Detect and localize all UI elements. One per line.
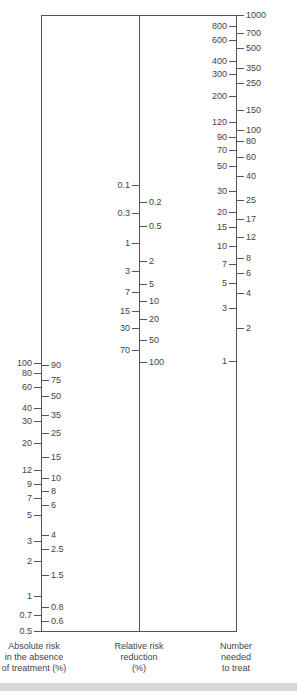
tick-mark: [237, 141, 244, 142]
tick-mark: [34, 541, 41, 542]
tick-label: 0.5: [19, 627, 32, 636]
tick-label: 3: [222, 304, 227, 313]
tick-mark: [34, 443, 41, 444]
tick-label: 15: [217, 223, 227, 232]
caption-line: to treat: [191, 663, 281, 674]
tick-label: 90: [51, 361, 61, 370]
tick-mark: [229, 283, 236, 284]
tick-label: 4: [51, 531, 56, 540]
tick-label: 1: [222, 357, 227, 366]
tick-mark: [42, 491, 49, 492]
tick-label: 70: [217, 146, 227, 155]
tick-mark: [42, 396, 49, 397]
tick-mark: [42, 621, 49, 622]
tick-label: 0.1: [117, 181, 130, 190]
tick-label: 6: [246, 269, 251, 278]
tick-mark: [229, 264, 236, 265]
tick-label: 25: [51, 429, 61, 438]
tick-label: 8: [51, 487, 56, 496]
tick-label: 50: [51, 392, 61, 401]
tick-mark: [140, 362, 147, 363]
tick-mark: [229, 246, 236, 247]
tick-mark: [42, 433, 49, 434]
tick-label: 12: [246, 233, 256, 242]
tick-mark: [237, 33, 244, 34]
tick-label: 10: [149, 297, 159, 306]
tick-mark: [34, 470, 41, 471]
tick-mark: [132, 292, 139, 293]
tick-mark: [229, 96, 236, 97]
tick-mark: [42, 380, 49, 381]
tick-label: 0.7: [19, 611, 32, 620]
tick-label: 1: [27, 592, 32, 601]
tick-mark: [42, 478, 49, 479]
caption-line: needed: [191, 652, 281, 663]
tick-mark: [237, 219, 244, 220]
tick-label: 15: [120, 307, 130, 316]
tick-label: 6: [51, 501, 56, 510]
tick-label: 30: [120, 324, 130, 333]
tick-mark: [140, 202, 147, 203]
tick-mark: [34, 561, 41, 562]
tick-mark: [237, 293, 244, 294]
tick-label: 20: [22, 439, 32, 448]
tick-label: 50: [217, 162, 227, 171]
tick-label: 3: [125, 267, 130, 276]
tick-mark: [34, 408, 41, 409]
tick-mark: [42, 549, 49, 550]
tick-label: 150: [246, 106, 261, 115]
axis-caption: Numberneededto treat: [191, 641, 281, 674]
tick-mark: [42, 575, 49, 576]
tick-label: 0.6: [51, 617, 64, 626]
tick-label: 1: [125, 239, 130, 248]
tick-mark: [237, 15, 244, 16]
tick-mark: [132, 271, 139, 272]
tick-label: 7: [27, 494, 32, 503]
tick-label: 0.2: [149, 198, 162, 207]
tick-label: 0.8: [51, 603, 64, 612]
tick-mark: [229, 212, 236, 213]
caption-line: Relative risk: [94, 641, 184, 652]
tick-mark: [229, 166, 236, 167]
tick-mark: [42, 535, 49, 536]
tick-label: 350: [246, 64, 261, 73]
axis-line: [41, 15, 42, 632]
tick-mark: [140, 301, 147, 302]
tick-mark: [132, 350, 139, 351]
axis-caption: Relative riskreduction(%): [94, 641, 184, 674]
tick-mark: [34, 484, 41, 485]
tick-label: 40: [22, 404, 32, 413]
tick-label: 100: [17, 359, 32, 368]
tick-label: 700: [246, 29, 261, 38]
tick-mark: [140, 340, 147, 341]
tick-mark: [132, 243, 139, 244]
tick-label: 500: [246, 44, 261, 53]
tick-mark: [237, 237, 244, 238]
tick-mark: [229, 308, 236, 309]
tick-mark: [237, 273, 244, 274]
tick-label: 400: [212, 57, 227, 66]
nomogram: 1008060403020129753210.70.59075503525151…: [0, 0, 297, 691]
tick-mark: [34, 631, 41, 632]
tick-label: 100: [246, 126, 261, 135]
tick-label: 10: [51, 474, 61, 483]
tick-label: 60: [22, 383, 32, 392]
tick-label: 70: [120, 346, 130, 355]
tick-label: 7: [222, 260, 227, 269]
tick-label: 3: [27, 537, 32, 546]
tick-mark: [229, 26, 236, 27]
tick-mark: [42, 415, 49, 416]
tick-label: 17: [246, 215, 256, 224]
bottom-border: [0, 683, 297, 691]
tick-label: 80: [246, 137, 256, 146]
tick-label: 800: [212, 22, 227, 31]
tick-label: 1000: [246, 11, 266, 20]
tick-mark: [229, 74, 236, 75]
tick-mark: [237, 110, 244, 111]
tick-label: 35: [51, 411, 61, 420]
tick-mark: [229, 361, 236, 362]
tick-mark: [34, 515, 41, 516]
tick-mark: [132, 311, 139, 312]
tick-label: 600: [212, 36, 227, 45]
tick-mark: [229, 61, 236, 62]
